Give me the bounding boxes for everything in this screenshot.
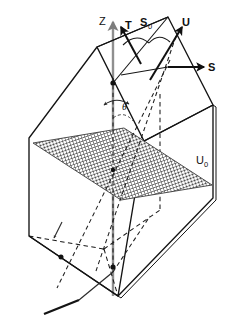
vertex-dot-left [59, 255, 64, 260]
u0-vector-subscript: 0 [204, 160, 208, 169]
u-vector-label: U [182, 16, 190, 28]
scattering-geometry-figure: Z T S 0 U S U 0 θ [0, 0, 234, 318]
t-vector-label: T [125, 19, 132, 31]
u0-vector-label: U [196, 154, 204, 166]
scattering-diagram-svg: Z T S 0 U S U 0 θ [0, 0, 234, 318]
theta-angle-label: θ [122, 101, 127, 112]
s0-vector-subscript: 0 [148, 22, 152, 31]
s-vector-label: S [208, 61, 215, 73]
vertex-dot-centre [111, 168, 115, 172]
vertex-dot-bottom [110, 264, 115, 269]
z-axis-label: Z [99, 15, 106, 27]
s0-vector-label: S [140, 16, 147, 28]
